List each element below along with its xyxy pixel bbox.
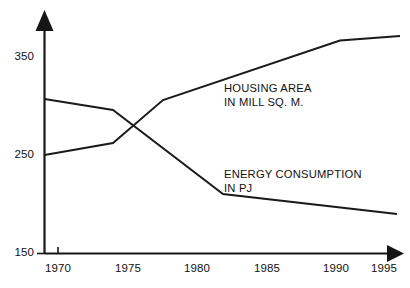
line-chart: 350 250 150 1970 1975 1980 1985 1990 199… (0, 0, 410, 288)
series-label-energy-consumption-line1: ENERGY CONSUMPTION (224, 168, 362, 182)
series-label-energy-consumption: ENERGY CONSUMPTION IN PJ (224, 168, 362, 195)
x-axis-tick-label-1985: 1985 (247, 262, 287, 274)
y-axis-tick-label-150: 150 (0, 246, 34, 258)
x-axis-tick-label-1975: 1975 (108, 262, 148, 274)
y-axis-tick-label-350: 350 (0, 50, 34, 62)
y-axis-arrow-icon (36, 10, 54, 31)
series-line-housing-area (45, 36, 401, 155)
x-axis-tick-label-1990: 1990 (316, 262, 356, 274)
x-axis-tick-label-1980: 1980 (177, 262, 217, 274)
y-axis-tick-label-250: 250 (0, 148, 34, 160)
series-label-housing-area: HOUSING AREA IN MILL SQ. M. (224, 82, 312, 109)
series-line-energy-consumption (45, 99, 398, 214)
x-axis-arrow-icon (387, 245, 404, 262)
x-axis-tick-label-1970: 1970 (38, 262, 78, 274)
series-label-housing-area-line2: IN MILL SQ. M. (224, 96, 312, 110)
chart-plot-area (0, 0, 410, 288)
series-label-housing-area-line1: HOUSING AREA (224, 82, 312, 96)
series-label-energy-consumption-line2: IN PJ (224, 182, 362, 196)
x-axis-tick-label-1995: 1995 (364, 262, 404, 274)
